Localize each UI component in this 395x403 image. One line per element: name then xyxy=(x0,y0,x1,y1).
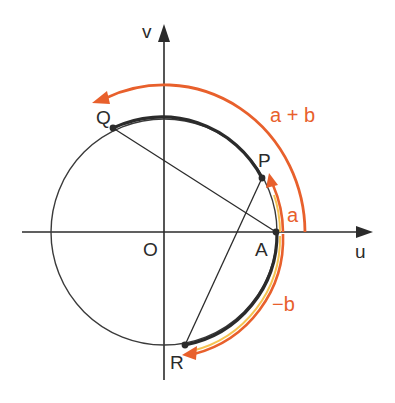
label-r: R xyxy=(170,352,184,373)
label-arc-a: a xyxy=(287,204,299,226)
axes xyxy=(22,24,373,380)
u-axis-arrowhead-icon xyxy=(356,226,373,238)
label-arc-a-plus-b: a + b xyxy=(270,104,315,126)
label-p: P xyxy=(258,150,271,171)
chord-q-a xyxy=(113,128,276,232)
label-arc-minus-b: −b xyxy=(272,293,295,315)
label-u: u xyxy=(355,241,366,262)
point-a xyxy=(273,229,280,236)
arc-p-to-q-thick xyxy=(113,117,262,178)
label-o: O xyxy=(143,239,158,260)
label-a-point: A xyxy=(255,239,268,260)
point-r xyxy=(182,342,189,349)
point-p xyxy=(259,175,266,182)
label-v: v xyxy=(142,21,152,42)
arc-a-plus-b-arrowhead-icon xyxy=(92,91,110,104)
diagram-canvas: v u O A P Q R a a + b −b xyxy=(0,0,395,403)
unit-circle-diagram: v u O A P Q R a a + b −b xyxy=(0,0,395,403)
arc-a-arrowhead-icon xyxy=(266,173,278,188)
label-q: Q xyxy=(96,107,111,128)
v-axis-arrowhead-icon xyxy=(158,24,170,42)
